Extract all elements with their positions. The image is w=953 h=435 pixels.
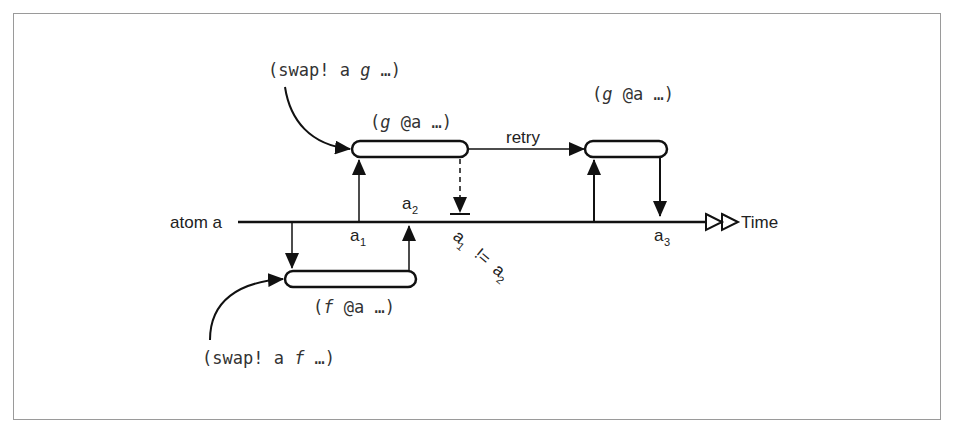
timeline: atom a Time <box>170 213 778 232</box>
svg-text:a: a <box>402 194 412 213</box>
time-label: Time <box>741 213 778 232</box>
swap-g-call: (swap! a g …) <box>268 60 401 149</box>
swap-f-label: (swap! a f …) <box>202 348 335 368</box>
g-retry-label: (g @a …) <box>592 84 674 104</box>
retry-label: retry <box>506 128 541 147</box>
svg-text:1: 1 <box>360 236 366 248</box>
svg-text:a: a <box>350 226 360 245</box>
svg-text:!=: != <box>471 245 494 269</box>
f-run-box: (f @a …) <box>285 271 416 317</box>
swap-f-call: (swap! a f …) <box>202 279 335 368</box>
swap-g-label: (swap! a g …) <box>268 60 401 80</box>
svg-text:2: 2 <box>412 204 418 216</box>
marker-a1: a 1 <box>350 226 366 248</box>
marker-a3: a 3 <box>654 226 670 248</box>
g-first-label: (g @a …) <box>370 112 452 132</box>
time-arrow-icon <box>706 214 738 230</box>
inequality-label: a 1 != a 2 <box>448 227 514 287</box>
g-retry-box: (g @a …) <box>585 84 674 157</box>
svg-text:3: 3 <box>664 236 670 248</box>
g-first-box: (g @a …) <box>352 112 468 157</box>
f-run-label: (f @a …) <box>313 297 395 317</box>
marker-a2: a 2 <box>402 194 418 216</box>
timeline-label: atom a <box>170 213 223 232</box>
retry-edge: retry <box>468 128 584 149</box>
atom-swap-diagram: atom a Time (swap! a g …) (g @a …) retry… <box>0 0 953 435</box>
svg-text:a: a <box>654 226 664 245</box>
